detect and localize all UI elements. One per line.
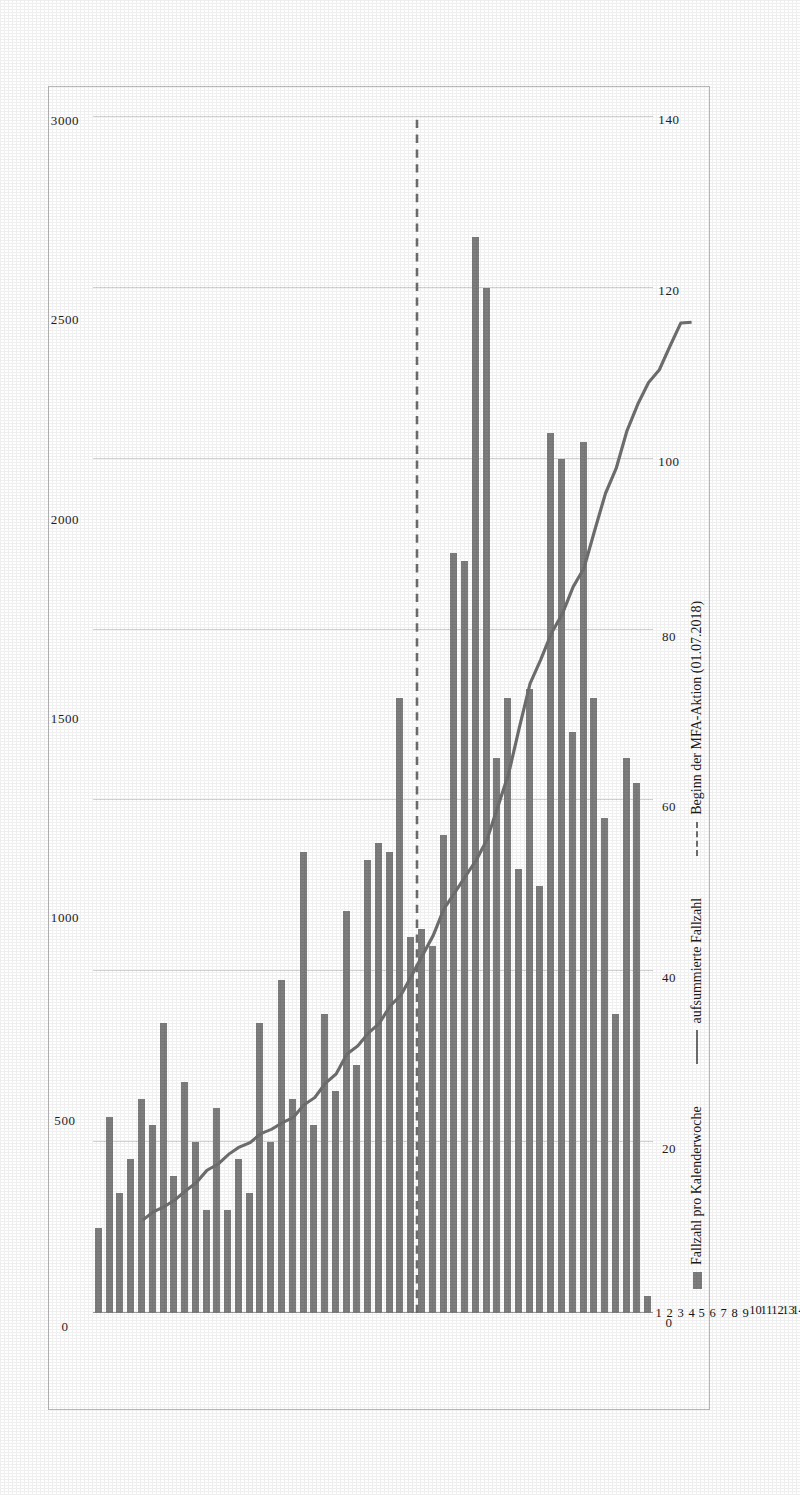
secondary-tick-label: 0 <box>61 1319 68 1335</box>
bar <box>644 1295 651 1312</box>
bar <box>127 1159 134 1313</box>
category-label: 6 <box>710 1306 716 1321</box>
bar-swatch-icon <box>693 1272 702 1289</box>
bar <box>526 689 533 1313</box>
category-label: 7 <box>720 1306 726 1321</box>
bar <box>612 1014 619 1313</box>
legend-label-bars: Fallzahl pro Kalenderwoche <box>689 1106 705 1265</box>
dashed-line-swatch-icon <box>696 821 698 855</box>
bar <box>558 458 565 1312</box>
secondary-tick-label: 1000 <box>51 910 79 926</box>
bar <box>429 945 436 1312</box>
bar <box>310 1125 317 1313</box>
secondary-tick-label: 2500 <box>51 312 79 328</box>
scanned-page: 050010001500200025003000 020406080100120… <box>0 0 800 1495</box>
bar <box>160 1022 167 1312</box>
bar <box>267 1142 274 1313</box>
bar <box>213 1107 220 1312</box>
category-label: 2 <box>667 1306 673 1321</box>
bar <box>138 1099 145 1313</box>
category-label: 9 <box>742 1306 748 1321</box>
category-label: 8 <box>731 1306 737 1321</box>
bar <box>461 561 468 1313</box>
category-label: 14 <box>793 1303 800 1318</box>
chart-legend: Fallzahl pro Kalenderwoche aufsummierte … <box>689 600 705 1288</box>
bar <box>332 1090 339 1312</box>
secondary-tick-label: 3000 <box>51 112 79 128</box>
category-label: 4 <box>688 1306 694 1321</box>
bar <box>149 1125 156 1313</box>
chart-frame: 050010001500200025003000 020406080100120… <box>48 86 710 1410</box>
bar <box>235 1159 242 1313</box>
bar <box>418 928 425 1312</box>
bar <box>472 236 479 1312</box>
bar <box>493 757 500 1312</box>
bar <box>515 868 522 1312</box>
bar <box>343 911 350 1313</box>
bar <box>170 1176 177 1313</box>
bar <box>590 697 597 1312</box>
bar <box>116 1193 123 1313</box>
bar <box>181 1082 188 1313</box>
bar <box>256 1022 263 1312</box>
bar <box>483 287 490 1312</box>
bar <box>536 885 543 1312</box>
bar <box>375 843 382 1313</box>
bar <box>353 1065 360 1313</box>
plot-area <box>93 117 653 1313</box>
bar <box>203 1210 210 1313</box>
bar <box>440 834 447 1312</box>
bar <box>364 860 371 1313</box>
legend-label-reference: Beginn der MFA-Aktion (01.07.2018) <box>689 600 705 814</box>
bar <box>278 979 285 1312</box>
bar <box>623 757 630 1312</box>
secondary-tick-label: 2000 <box>51 511 79 527</box>
chart-stage: 050010001500200025003000 020406080100120… <box>30 58 770 1438</box>
legend-label-line: aufsummierte Fallzahl <box>689 897 705 1023</box>
bar <box>633 783 640 1313</box>
bar <box>407 937 414 1313</box>
category-label: 1 <box>656 1306 662 1321</box>
legend-item-reference: Beginn der MFA-Aktion (01.07.2018) <box>689 600 705 855</box>
bar <box>289 1099 296 1313</box>
bar <box>300 851 307 1312</box>
bar <box>106 1116 113 1312</box>
secondary-tick-label: 500 <box>54 1113 75 1129</box>
bar <box>386 851 393 1312</box>
bar <box>396 697 403 1312</box>
bar <box>504 697 511 1312</box>
legend-item-line: aufsummierte Fallzahl <box>689 897 705 1064</box>
secondary-tick-label: 1500 <box>51 710 79 726</box>
bar <box>450 552 457 1312</box>
category-label: 3 <box>677 1306 683 1321</box>
bar <box>321 1014 328 1313</box>
category-label: 5 <box>699 1306 705 1321</box>
bar <box>224 1210 231 1313</box>
bar <box>601 817 608 1312</box>
bar <box>569 732 576 1313</box>
bar <box>246 1193 253 1313</box>
category-axis-labels: 1234567891011121314151617181920212223242… <box>655 117 677 1313</box>
bar-series <box>93 117 653 1313</box>
legend-item-bars: Fallzahl pro Kalenderwoche <box>689 1106 705 1289</box>
bar <box>192 1142 199 1313</box>
bar <box>95 1227 102 1312</box>
bar <box>580 441 587 1312</box>
line-swatch-icon <box>696 1030 698 1064</box>
bar <box>547 433 554 1313</box>
